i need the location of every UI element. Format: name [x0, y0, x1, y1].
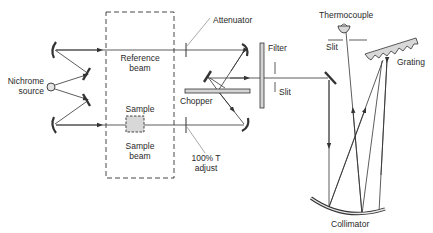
- label-exit-slit: Slit: [326, 42, 338, 52]
- label-reference-beam: Reference beam: [112, 53, 168, 73]
- sample-cell: [126, 116, 144, 132]
- label-transmittance-line1: 100% T: [186, 153, 226, 163]
- ray-source-to-lower-mirror: [55, 89, 86, 99]
- label-source-line1: Nichrome: [4, 76, 44, 86]
- label-sample-beam-line2: beam: [112, 151, 168, 161]
- label-collimator: Collimator: [331, 219, 369, 229]
- thermocouple: [338, 26, 350, 33]
- ray-lower-flat-to-concave: [55, 102, 86, 124]
- label-filter: Filter: [268, 43, 287, 53]
- ray-upper-flat-to-concave: [55, 50, 86, 72]
- label-grating: Grating: [397, 57, 425, 67]
- label-entrance-slit: Slit: [279, 87, 291, 97]
- ray-collimator-to-thermocouple: [362, 61, 382, 214]
- label-transmittance-adjust: 100% T adjust: [186, 153, 226, 173]
- label-chopper: Chopper: [180, 96, 213, 106]
- label-nichrome-source: Nichrome source: [4, 76, 44, 96]
- label-sample-beam-line1: Sample: [112, 141, 168, 151]
- label-thermocouple: Thermocouple: [319, 10, 373, 20]
- label-sample-beam: Sample beam: [112, 141, 168, 161]
- optical-diagram: [0, 0, 433, 233]
- nichrome-source: [47, 83, 55, 91]
- label-attenuator: Attenuator: [213, 15, 252, 25]
- ray-source-to-upper-mirror: [55, 75, 86, 85]
- label-reference-line2: beam: [112, 63, 168, 73]
- right-bottom-concave-mirror: [242, 118, 248, 131]
- left-bottom-concave-mirror: [52, 117, 56, 133]
- label-sample: Sample: [112, 104, 168, 114]
- chopper: [185, 89, 250, 93]
- label-transmittance-line2: adjust: [186, 163, 226, 173]
- label-reference-line1: Reference: [112, 53, 168, 63]
- upper-flat-mirror: [83, 68, 90, 80]
- lower-flat-mirror: [83, 94, 90, 106]
- filter: [260, 43, 264, 108]
- label-source-line2: source: [4, 86, 44, 96]
